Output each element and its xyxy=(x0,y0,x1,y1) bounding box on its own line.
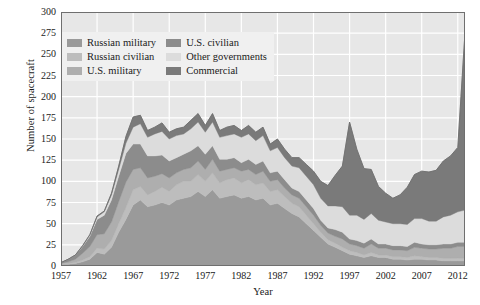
y-tick-label: 225 xyxy=(20,71,56,81)
legend-label: U.S. military xyxy=(87,64,142,77)
legend-label: U.S. civilian xyxy=(186,36,239,49)
legend-item: Commercial xyxy=(166,64,267,77)
x-tick-label: 1997 xyxy=(340,270,360,281)
y-tick-label: 250 xyxy=(20,49,56,59)
legend-swatch-icon xyxy=(166,39,181,47)
legend-label: Russian civilian xyxy=(87,50,154,63)
x-tick-label: 2002 xyxy=(376,270,396,281)
legend-swatch-icon xyxy=(166,67,181,75)
x-axis-title: Year xyxy=(61,286,465,297)
legend-item: Russian civilian xyxy=(67,50,156,63)
y-axis-ticks: 0255075100125150175200225250275300 xyxy=(20,12,56,266)
legend-item: Other governments xyxy=(166,50,267,63)
legend-label: Other governments xyxy=(186,50,267,63)
x-tick-label: 1982 xyxy=(231,270,251,281)
spacecraft-area-chart: Number of spacecraft 0255075100125150175… xyxy=(0,0,480,305)
legend-item: U.S. military xyxy=(67,64,156,77)
legend-swatch-icon xyxy=(67,39,82,47)
x-tick-label: 1962 xyxy=(87,270,107,281)
x-tick-label: 1977 xyxy=(195,270,215,281)
x-tick-label: 1967 xyxy=(123,270,143,281)
x-tick-label: 1992 xyxy=(304,270,324,281)
legend-item: U.S. civilian xyxy=(166,36,267,49)
y-tick-label: 25 xyxy=(20,240,56,250)
legend-item: Russian military xyxy=(67,36,156,49)
chart-legend: Russian militaryU.S. civilianRussian civ… xyxy=(62,32,274,81)
y-tick-label: 175 xyxy=(20,113,56,123)
y-tick-label: 150 xyxy=(20,134,56,144)
legend-swatch-icon xyxy=(67,67,82,75)
legend-label: Commercial xyxy=(186,64,238,77)
y-tick-label: 300 xyxy=(20,7,56,17)
y-tick-label: 100 xyxy=(20,176,56,186)
x-tick-label: 2007 xyxy=(412,270,432,281)
y-tick-label: 75 xyxy=(20,198,56,208)
x-tick-label: 2012 xyxy=(448,270,468,281)
x-tick-label: 1987 xyxy=(267,270,287,281)
x-tick-label: 1957 xyxy=(51,270,71,281)
x-tick-label: 1972 xyxy=(159,270,179,281)
legend-label: Russian military xyxy=(87,36,156,49)
y-tick-label: 275 xyxy=(20,28,56,38)
y-tick-label: 200 xyxy=(20,92,56,102)
legend-swatch-icon xyxy=(67,53,82,61)
legend-swatch-icon xyxy=(166,53,181,61)
y-tick-label: 50 xyxy=(20,219,56,229)
y-tick-label: 125 xyxy=(20,155,56,165)
